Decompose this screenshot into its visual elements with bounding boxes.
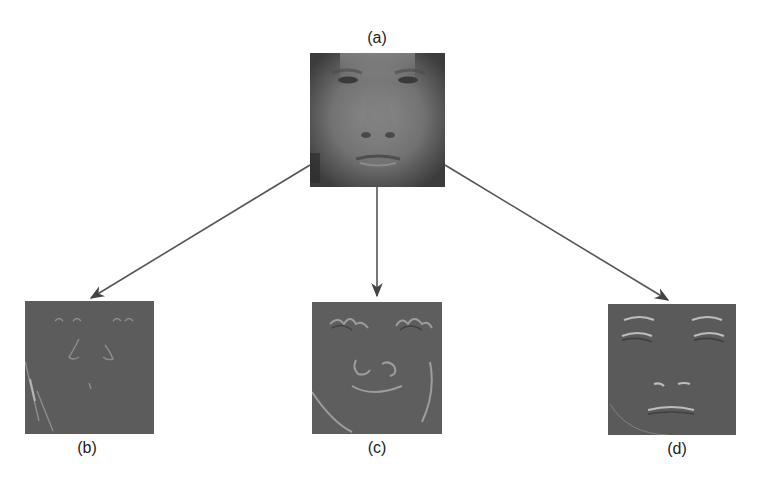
- label-a: (a): [357, 29, 397, 47]
- filtered-face-c: [312, 302, 442, 434]
- arrow-to-d: [445, 165, 668, 300]
- filtered-face-b: [25, 301, 154, 434]
- label-b: (b): [67, 439, 107, 457]
- arrow-to-b: [91, 165, 310, 298]
- label-d: (d): [657, 440, 697, 458]
- original-face-image: [310, 53, 445, 187]
- label-c: (c): [357, 439, 397, 457]
- filtered-face-d: [608, 304, 736, 435]
